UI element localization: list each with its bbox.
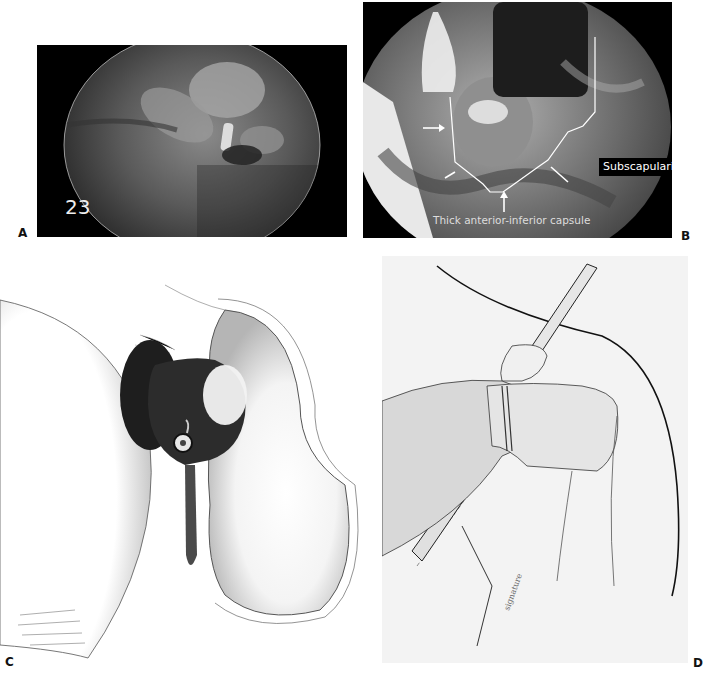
svg-text:signature: signature — [502, 572, 524, 612]
panel-a-arthroscopic-image: 23 — [37, 45, 347, 237]
panel-label-a: A — [18, 226, 27, 240]
panel-d-illustration: signature — [382, 256, 688, 663]
panel-label-b: B — [681, 229, 690, 243]
panel-c-illustration — [0, 255, 375, 665]
annotation-capsule: Thick anterior-inferior capsule — [433, 214, 590, 226]
panel-b-arthroscopic-image: Subscapularis Thick anterior-inferior ca… — [363, 2, 672, 238]
panel-label-c: C — [5, 655, 14, 669]
shoulder-arthroscopy-illustration: signature — [382, 256, 688, 663]
annotation-subscapularis: Subscapularis — [599, 158, 672, 176]
arthroscope-view-b — [363, 2, 672, 238]
shoulder-joint-illustration — [0, 255, 375, 665]
frame-number: 23 — [65, 195, 90, 219]
panel-label-d: D — [693, 656, 703, 670]
